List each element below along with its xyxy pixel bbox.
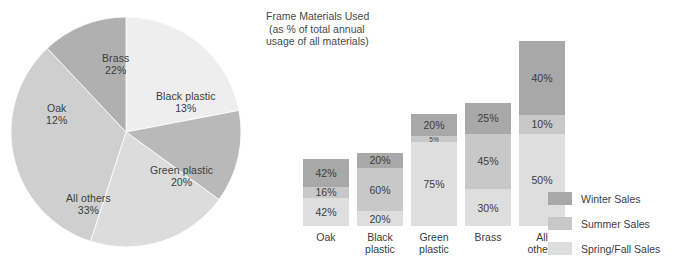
legend-label: Winter Sales <box>581 193 641 205</box>
bar-column: 42%16%42%Oak <box>303 159 349 226</box>
pie-slice-name: Green plastic <box>150 164 213 176</box>
bar-segment-value: 16% <box>315 187 336 198</box>
pie-slice-value: 20% <box>150 176 213 188</box>
bar-stack: 20%5%75%Green plastic <box>411 114 457 226</box>
legend-item[interactable]: Spring/Fall Sales <box>548 238 673 259</box>
bar-segment: 45% <box>465 134 511 189</box>
bar-column: 20%60%20%Black plastic <box>357 153 403 226</box>
pie-slice-name: Oak <box>46 102 67 114</box>
bar-segment: 40% <box>519 41 565 115</box>
pie-slice-value: 22% <box>102 64 129 76</box>
bar-segment-value: 25% <box>477 112 498 124</box>
chart-legend: Winter SalesSummer SalesSpring/Fall Sale… <box>548 188 673 263</box>
bar-segment: 20% <box>357 211 403 226</box>
bar-segment-value: 42% <box>315 167 336 179</box>
bar-segment-value: 45% <box>477 155 498 167</box>
pie-slice-name: All others <box>66 192 111 204</box>
bar-segment-value: 40% <box>531 72 552 84</box>
pie-slice-label: Green plastic20% <box>150 164 213 188</box>
bar-segment: 75% <box>411 142 457 226</box>
pie-svg <box>10 16 242 248</box>
legend-swatch <box>548 217 572 230</box>
bar-stack: 25%45%30%Brass <box>465 103 511 226</box>
bar-segment: 16% <box>303 187 349 198</box>
pie-slice-label: Brass22% <box>102 52 129 76</box>
legend-item[interactable]: Winter Sales <box>548 188 673 209</box>
bar-segment-value: 50% <box>531 174 552 186</box>
bar-segment: 20% <box>357 153 403 168</box>
bar-segment: 25% <box>465 103 511 134</box>
chart-canvas: Brass22%Black plastic13%Green plastic20%… <box>0 0 673 265</box>
legend-item[interactable]: Summer Sales <box>548 213 673 234</box>
bar-column: 25%45%30%Brass <box>465 103 511 226</box>
bar-stack: 20%60%20%Black plastic <box>357 153 403 226</box>
pie-slice-name: Brass <box>102 52 129 64</box>
pie-chart: Brass22%Black plastic13%Green plastic20%… <box>10 16 242 248</box>
bar-segment-value: 42% <box>315 206 336 218</box>
pie-slice-label: Oak12% <box>46 102 67 126</box>
legend-label: Spring/Fall Sales <box>581 243 660 255</box>
bar-segment: 20% <box>411 114 457 136</box>
pie-slice-value: 13% <box>156 102 216 114</box>
bars-area: 42%16%42%Oak20%60%20%Black plastic20%5%7… <box>262 0 562 265</box>
bar-segment-value: 20% <box>369 154 390 166</box>
legend-swatch <box>548 192 572 205</box>
pie-slice-label: All others33% <box>66 192 111 216</box>
bar-stack: 42%16%42%Oak <box>303 159 349 226</box>
legend-swatch <box>548 242 572 255</box>
bar-segment: 42% <box>303 159 349 187</box>
pie-slice-label: Black plastic13% <box>156 90 216 114</box>
bar-segment-value: 75% <box>423 178 444 190</box>
bar-segment-value: 20% <box>369 213 390 225</box>
bar-segment-value: 30% <box>477 202 498 214</box>
bar-segment-value: 20% <box>423 119 444 131</box>
bar-segment: 42% <box>303 198 349 226</box>
pie-slice-value: 12% <box>46 114 67 126</box>
bar-segment: 60% <box>357 168 403 212</box>
pie-slice-name: Black plastic <box>156 90 216 102</box>
bar-segment-value: 10% <box>531 118 552 130</box>
bar-column: 20%5%75%Green plastic <box>411 114 457 226</box>
stacked-bar-chart: Frame Materials Used (as % of total annu… <box>262 0 562 265</box>
pie-slice-value: 33% <box>66 204 111 216</box>
bar-segment: 10% <box>519 115 565 133</box>
bar-segment: 30% <box>465 189 511 226</box>
legend-label: Summer Sales <box>581 218 650 230</box>
bar-segment-value: 60% <box>369 184 390 196</box>
